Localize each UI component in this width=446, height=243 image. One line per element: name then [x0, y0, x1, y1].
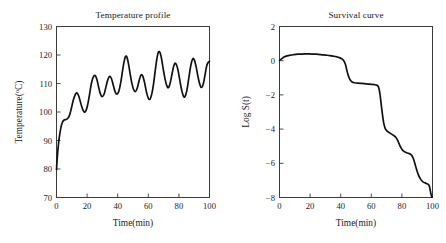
- y-axis-label-tail: C): [14, 81, 25, 90]
- y-tick-label-temperature: 70: [43, 193, 52, 203]
- x-tick-label-temperature: 60: [144, 201, 153, 211]
- x-tick-label-survival: 40: [336, 201, 345, 211]
- x-tick-label-temperature: 40: [113, 201, 122, 211]
- chart-title-survival: Survival curve: [328, 10, 383, 20]
- panel-survival-curve: Survival curve 2 0 −2 −4: [223, 0, 446, 243]
- y-tick-label-survival: −6: [266, 158, 276, 168]
- y-tick-label-survival: 2: [271, 22, 275, 32]
- y-tick-label-survival: −2: [266, 90, 275, 100]
- y-tick-label-temperature: 110: [39, 79, 52, 89]
- y-tick-label-survival: 0: [271, 56, 275, 66]
- x-tickmarks-survival: [280, 194, 433, 198]
- survival-data-line: [280, 54, 432, 197]
- x-tick-label-temperature: 80: [175, 201, 184, 211]
- y-tickmarks-survival: [280, 27, 284, 198]
- x-axis-label-survival: Time(min): [336, 218, 376, 229]
- x-tick-label-survival: 0: [277, 201, 281, 211]
- x-tick-label-survival: 80: [398, 201, 407, 211]
- plot-frame-survival: [280, 27, 433, 198]
- y-axis-label-survival-text: Log S(t): [241, 96, 252, 128]
- y-tick-label-temperature: 90: [43, 136, 52, 146]
- y-tickmarks-temperature: [57, 27, 61, 198]
- x-tick-label-temperature: 20: [83, 201, 92, 211]
- chart-title-temperature: Temperature profile: [96, 10, 171, 20]
- y-axis-label-main: Temperature(: [14, 93, 25, 143]
- y-tick-label-temperature: 80: [43, 164, 52, 174]
- y-axis-label-temperature: Temperature(oC): [13, 81, 25, 144]
- y-tick-label-temperature: 100: [39, 107, 52, 117]
- x-tick-label-temperature: 100: [203, 201, 216, 211]
- figure-container: Temperature profile: [0, 0, 446, 243]
- y-tick-label-survival: −4: [266, 124, 276, 134]
- x-tick-label-survival: 100: [426, 201, 439, 211]
- x-tick-label-survival: 60: [367, 201, 376, 211]
- y-tick-label-survival: −8: [266, 193, 275, 203]
- panel-temperature-profile: Temperature profile: [0, 0, 223, 243]
- x-tickmarks-temperature: [57, 194, 210, 198]
- plot-frame-temperature: [57, 27, 210, 198]
- x-tick-label-survival: 20: [306, 201, 315, 211]
- y-tick-label-temperature: 130: [39, 22, 52, 32]
- temperature-data-line: [57, 52, 210, 170]
- svg-text:Temperature(oC): Temperature(oC): [13, 81, 25, 144]
- y-tick-label-temperature: 120: [39, 50, 52, 60]
- y-axis-label-survival: Log S(t): [241, 96, 252, 128]
- x-tick-label-temperature: 0: [54, 201, 58, 211]
- x-axis-label-temperature: Time(min): [113, 218, 153, 229]
